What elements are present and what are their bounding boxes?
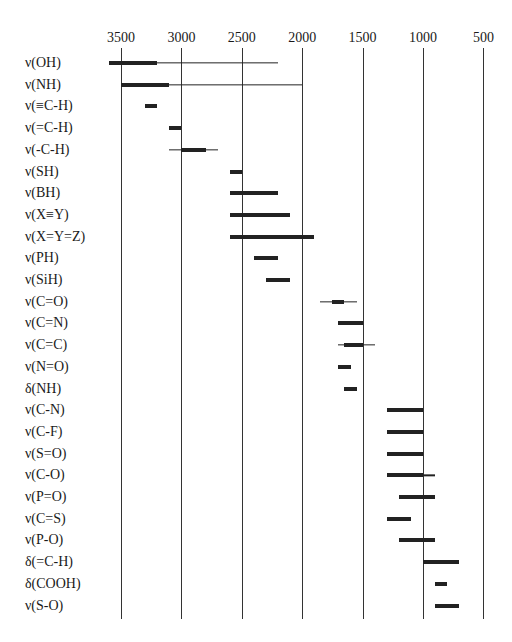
row-label: ν(SH): [25, 164, 59, 180]
row-label: ν(C=O): [25, 294, 68, 310]
row-label: ν(C-N): [25, 402, 65, 418]
row-label: ν(-C-H): [25, 142, 69, 158]
x-tick-label: 1000: [409, 30, 437, 46]
row-label: ν(NH): [25, 77, 61, 93]
gridline: [121, 48, 122, 619]
row-label: ν(C=C): [25, 337, 67, 353]
strong-range-bar: [387, 473, 423, 477]
strong-range-bar: [399, 538, 435, 542]
strong-range-bar: [109, 61, 157, 65]
strong-range-bar: [230, 170, 242, 174]
row-label: ν(OH): [25, 55, 61, 71]
row-label: ν(S-O): [25, 598, 63, 614]
strong-range-bar: [387, 517, 411, 521]
strong-range-bar: [338, 321, 362, 325]
row-label: ν(N=O): [25, 359, 69, 375]
row-label: ν(=C-H): [25, 120, 73, 136]
row-label: ν(P-O): [25, 532, 63, 548]
row-label: δ(COOH): [25, 576, 81, 592]
gridline: [483, 48, 484, 619]
row-label: ν(≡C-H): [25, 98, 73, 114]
row-label: ν(SiH): [25, 272, 62, 288]
row-label: ν(C=S): [25, 511, 66, 527]
row-label: ν(X=Y=Z): [25, 229, 85, 245]
ir-correlation-chart: 350030002500200015001000500 ν(OH)ν(NH)ν(…: [0, 0, 512, 642]
row-label: ν(C-F): [25, 424, 62, 440]
strong-range-bar: [387, 452, 423, 456]
row-label: δ(=C-H): [25, 554, 73, 570]
gridline: [423, 48, 424, 619]
strong-range-bar: [387, 408, 423, 412]
strong-range-bar: [344, 343, 362, 347]
row-label: ν(C=N): [25, 315, 68, 331]
strong-range-bar: [230, 191, 278, 195]
row-label: ν(PH): [25, 250, 59, 266]
strong-range-bar: [230, 235, 315, 239]
x-tick-label: 2000: [288, 30, 316, 46]
strong-range-bar: [435, 604, 459, 608]
gridline: [363, 48, 364, 619]
x-tick-label: 2500: [228, 30, 256, 46]
strong-range-bar: [145, 104, 157, 108]
strong-range-bar: [181, 148, 205, 152]
strong-range-bar: [399, 495, 435, 499]
gridline: [302, 48, 303, 619]
strong-range-bar: [266, 278, 290, 282]
gridline: [181, 48, 182, 619]
strong-range-bar: [423, 560, 459, 564]
row-label: ν(S=O): [25, 446, 66, 462]
strong-range-bar: [332, 300, 344, 304]
gridline: [242, 48, 243, 619]
x-tick-label: 500: [473, 30, 494, 46]
row-label: δ(NH): [25, 381, 61, 397]
x-tick-label: 3000: [167, 30, 195, 46]
x-tick-label: 3500: [107, 30, 135, 46]
row-label: ν(X≡Y): [25, 207, 69, 223]
strong-range-bar: [121, 83, 169, 87]
strong-range-bar: [338, 365, 350, 369]
x-tick-label: 1500: [349, 30, 377, 46]
row-label: ν(C-O): [25, 467, 65, 483]
strong-range-bar: [169, 126, 181, 130]
strong-range-bar: [254, 256, 278, 260]
strong-range-bar: [387, 430, 423, 434]
row-label: ν(BH): [25, 185, 60, 201]
strong-range-bar: [230, 213, 290, 217]
row-label: ν(P=O): [25, 489, 66, 505]
strong-range-bar: [344, 387, 356, 391]
strong-range-bar: [435, 582, 447, 586]
